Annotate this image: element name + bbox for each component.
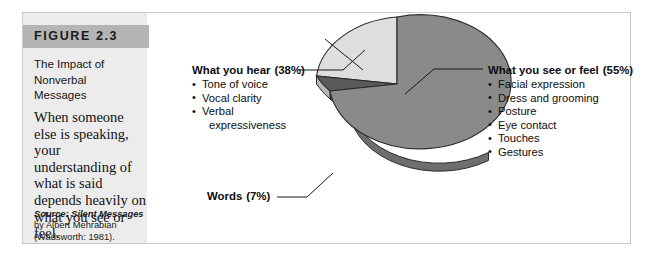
source-title: Source: Silent Messages [34, 209, 144, 219]
callout-see-item-3: Posture [498, 105, 537, 117]
callout-see-item-6: Gestures [498, 146, 543, 158]
list-item: Gestures [488, 146, 633, 160]
pie-slice-hear [317, 17, 398, 84]
callout-hear-percent: (38%) [274, 64, 304, 76]
callout-what-you-hear: What you hear(38%) Tone of voice Vocal c… [192, 63, 305, 132]
callout-hear-item-2: Vocal clarity [202, 92, 262, 104]
list-item: Eye contact [488, 119, 633, 133]
list-item: Facial expression [488, 78, 633, 92]
callout-what-you-see-or-feel: What you see or feel(55%) Facial express… [488, 63, 633, 160]
callout-see-percent: (55%) [603, 64, 633, 76]
callout-hear-item-3-continued: expressiveness [202, 119, 305, 133]
callout-see-item-5: Touches [498, 132, 540, 144]
callout-see-list: Facial expression Dress and grooming Pos… [488, 78, 633, 160]
callout-words-title: Words [207, 190, 242, 202]
list-item: Vocal clarity [192, 92, 305, 106]
callout-words-heading: Words(7%) [207, 189, 270, 203]
list-item: Verbalexpressiveness [192, 105, 305, 132]
figure-number-label: FIGURE 2.3 [34, 29, 118, 43]
callout-hear-heading: What you hear(38%) [192, 63, 305, 77]
callout-hear-title: What you hear [192, 64, 270, 76]
source-publisher: (Wadsworth: 1981). [34, 232, 115, 242]
figure-container: FIGURE 2.3 The Impact of Nonverbal Messa… [22, 12, 631, 244]
callout-see-title: What you see or feel [488, 64, 599, 76]
list-item: Touches [488, 132, 633, 146]
figure-title: The Impact of Nonverbal Messages [34, 57, 142, 104]
caption-column: FIGURE 2.3 The Impact of Nonverbal Messa… [23, 13, 147, 243]
callout-see-item-2: Dress and grooming [498, 92, 599, 104]
callout-see-heading: What you see or feel(55%) [488, 63, 633, 77]
callout-hear-item-3: Verbal [202, 105, 234, 117]
source-author: by Albert Mehrabian [34, 220, 117, 230]
list-item: Dress and grooming [488, 92, 633, 106]
callout-hear-item-1: Tone of voice [202, 78, 268, 90]
callout-words: Words(7%) [207, 189, 270, 203]
callout-words-percent: (7%) [246, 190, 270, 202]
callout-hear-list: Tone of voice Vocal clarity Verbalexpres… [192, 78, 305, 132]
list-item: Tone of voice [192, 78, 305, 92]
chart-area: What you hear(38%) Tone of voice Vocal c… [147, 13, 630, 243]
list-item: Posture [488, 105, 633, 119]
callout-see-item-4: Eye contact [498, 119, 556, 131]
callout-see-item-1: Facial expression [498, 78, 585, 90]
figure-source-note: Source: Silent Messages by Albert Mehrab… [34, 209, 150, 243]
